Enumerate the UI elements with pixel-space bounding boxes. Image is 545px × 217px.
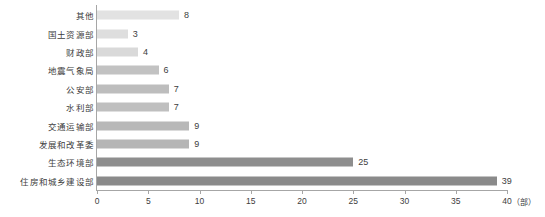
category-label: 发展和改革委	[39, 138, 94, 150]
bar	[97, 176, 497, 185]
bar-row: 水利部7	[0, 98, 545, 116]
bar-row: 公安部7	[0, 80, 545, 98]
bar-row: 交通运输部9	[0, 116, 545, 134]
tick-label: 25	[349, 196, 358, 206]
bar-row: 住房和城乡建设部39	[0, 172, 545, 190]
bar-value-label: 9	[194, 121, 199, 131]
bar-row: 发展和改革委9	[0, 135, 545, 153]
tick-label: 10	[195, 196, 204, 206]
bar-row: 生态环境部25	[0, 153, 545, 171]
category-label: 交通运输部	[48, 120, 94, 132]
bar	[97, 11, 179, 20]
bar-chart: 其他8国土资源部3财政部4地震气象局6公安部7水利部7交通运输部9发展和改革委9…	[0, 0, 545, 217]
bar	[97, 139, 189, 148]
tick-label: 5	[146, 196, 151, 206]
bar-value-label: 25	[358, 157, 368, 167]
tick-label: 0	[95, 196, 100, 206]
bar	[97, 158, 353, 167]
tick-mark	[97, 190, 98, 194]
bar-value-label: 9	[194, 139, 199, 149]
tick-label: 30	[400, 196, 409, 206]
tick-mark	[200, 190, 201, 194]
category-label: 国土资源部	[48, 28, 94, 40]
tick-label: 20	[297, 196, 306, 206]
bar-value-label: 6	[164, 65, 169, 75]
bar-value-label: 8	[184, 10, 189, 20]
tick-mark	[302, 190, 303, 194]
category-label: 公安部	[66, 83, 94, 95]
category-label: 财政部	[66, 46, 94, 58]
bar	[97, 47, 138, 56]
category-label: 其他	[76, 9, 94, 21]
bar	[97, 84, 169, 93]
bar	[97, 29, 128, 38]
tick-mark	[353, 190, 354, 194]
category-label: 水利部	[66, 101, 94, 113]
bar-row: 财政部4	[0, 43, 545, 61]
bar	[97, 66, 159, 75]
tick-label: 35	[451, 196, 460, 206]
tick-mark	[507, 190, 508, 194]
bar	[97, 121, 189, 130]
bar-value-label: 3	[133, 29, 138, 39]
tick-mark	[405, 190, 406, 194]
category-label: 地震气象局	[48, 64, 94, 76]
bar-value-label: 7	[174, 102, 179, 112]
category-label: 住房和城乡建设部	[20, 175, 94, 187]
category-label: 生态环境部	[48, 156, 94, 168]
bar-value-label: 39	[502, 176, 512, 186]
tick-label: 15	[246, 196, 255, 206]
x-axis-ticks: 0510152025303540	[0, 190, 545, 217]
tick-mark	[456, 190, 457, 194]
bar-row: 地震气象局6	[0, 61, 545, 79]
bar-rows: 其他8国土资源部3财政部4地震气象局6公安部7水利部7交通运输部9发展和改革委9…	[0, 6, 545, 190]
tick-mark	[251, 190, 252, 194]
bar-row: 其他8	[0, 6, 545, 24]
bar-row: 国土资源部3	[0, 24, 545, 42]
tick-mark	[148, 190, 149, 194]
tick-label: 40	[502, 196, 511, 206]
unit-label: （部）	[512, 196, 536, 207]
bar-value-label: 4	[143, 47, 148, 57]
bar-value-label: 7	[174, 84, 179, 94]
bar	[97, 103, 169, 112]
